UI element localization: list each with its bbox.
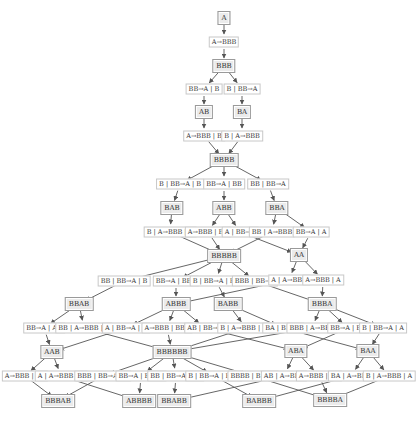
state-node: BAA <box>356 344 379 358</box>
state-node: BBA <box>265 201 288 215</box>
state-node: AA <box>290 248 308 262</box>
event-node: B | A→BBB <box>221 131 263 142</box>
edge-arrow <box>292 261 296 272</box>
edge-arrow <box>168 335 170 344</box>
event-node: BB→A | B <box>186 84 223 95</box>
event-node: B | A→BBB | A <box>363 371 416 382</box>
edge-arrow <box>301 356 314 370</box>
event-node: BB→A | BB <box>203 179 245 190</box>
state-node: BBBBBB <box>153 345 192 359</box>
event-node: B | BB→A | A <box>359 323 407 334</box>
edge-arrow <box>212 238 220 250</box>
state-node: BAB <box>160 201 183 215</box>
event-node: A→BBB | A <box>302 275 344 286</box>
edge-arrow <box>173 359 175 368</box>
state-node: BBAB <box>65 297 94 311</box>
edge-arrow <box>372 334 379 344</box>
edge-arrow <box>80 311 82 320</box>
state-node: BABB <box>214 297 243 311</box>
edge-arrow <box>175 383 176 393</box>
state-node: BBBAB <box>41 394 75 408</box>
edge-arrow <box>228 72 237 83</box>
edge-arrow <box>209 71 219 83</box>
edge-arrow <box>287 357 293 368</box>
state-node: BBBBB <box>207 249 241 263</box>
state-node: ABB <box>212 201 235 215</box>
state-node: BBBB <box>210 153 239 167</box>
edge-arrow <box>322 382 327 392</box>
edge-arrow <box>228 214 236 226</box>
edge-arrow <box>218 263 221 274</box>
state-node: BBBA <box>308 297 337 311</box>
edge-arrow <box>140 383 141 393</box>
event-node: A→BBB | B <box>183 131 225 142</box>
multiway-graph: AA→BBBBBBBB→A | BB | BB→AABBAA→BBB | BB … <box>0 0 420 423</box>
state-node: AB <box>195 105 213 119</box>
event-node: BB→A | A <box>293 227 330 238</box>
edge-arrow <box>171 215 172 224</box>
event-node: B | BB→A <box>224 84 261 95</box>
edge-arrow <box>54 359 58 369</box>
state-node: BBBBA <box>313 393 347 407</box>
state-node: ABBB <box>162 297 191 311</box>
edge-arrow <box>373 356 384 370</box>
edge-arrow <box>46 335 49 345</box>
edge-arrow <box>208 141 218 153</box>
state-node: BBABB <box>157 394 191 408</box>
event-node: B | BB→A | B <box>156 179 204 190</box>
state-node: BBB <box>212 59 235 73</box>
edge-arrow <box>304 260 318 274</box>
edge-arrow <box>170 311 174 321</box>
state-node: BABBB <box>242 394 276 408</box>
edge-arrow <box>232 310 241 322</box>
edge-arrow <box>175 191 178 201</box>
event-node: BB | BB→A <box>247 179 289 190</box>
edge-arrow <box>212 214 220 226</box>
edge-arrow <box>270 191 274 201</box>
edge-arrow <box>274 215 276 224</box>
state-node: ABA <box>284 344 307 358</box>
event-node: BB | A→BBB <box>249 227 295 238</box>
state-node: ABBBB <box>122 394 156 408</box>
edge-arrow <box>315 310 319 320</box>
event-node: A→BBB <box>209 37 239 48</box>
event-node: BB | BB→A | B <box>98 276 151 287</box>
state-node: BA <box>233 105 251 119</box>
edge-arrow <box>303 238 308 248</box>
edge-arrow <box>355 357 364 370</box>
edge-arrow <box>219 287 224 297</box>
state-node: AAB <box>40 345 63 359</box>
edge-layer <box>0 0 420 423</box>
edge-arrow <box>229 142 238 154</box>
state-node: A <box>217 11 230 25</box>
